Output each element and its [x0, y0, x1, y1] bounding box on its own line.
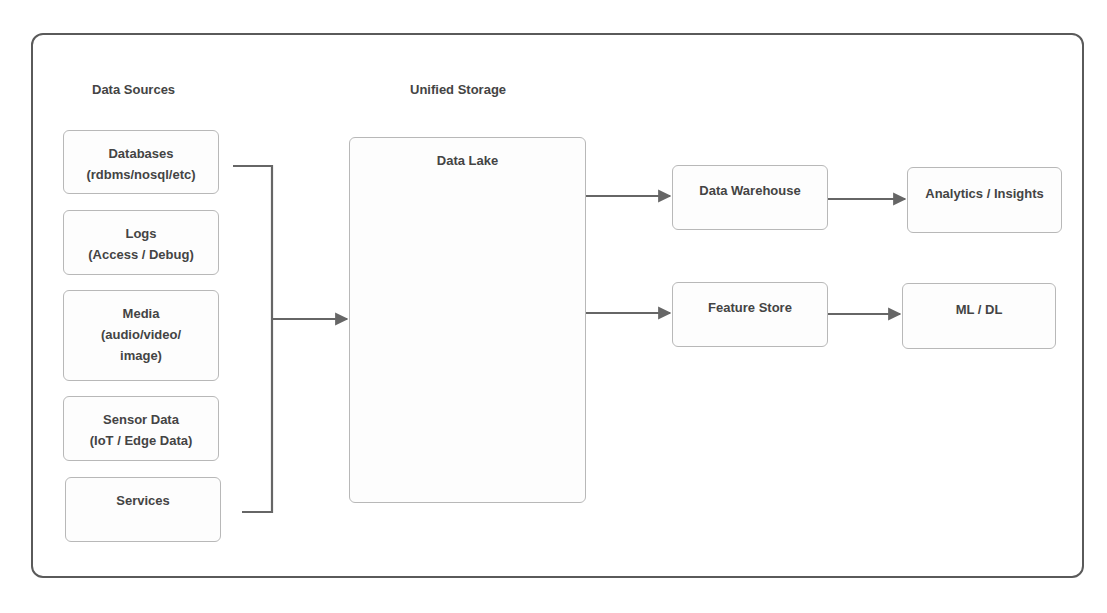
consumer-feature-store: Feature Store [672, 282, 828, 347]
source-databases-title: Databases [108, 143, 173, 164]
source-media-subtitle: (audio/video/ [101, 324, 181, 345]
source-services: Services [65, 477, 221, 542]
source-media-title: Media [123, 303, 160, 324]
ml-dl-title: ML / DL [956, 299, 1003, 320]
source-sensor-data: Sensor Data (IoT / Edge Data) [63, 396, 219, 461]
source-sensor-subtitle: (IoT / Edge Data) [90, 430, 193, 451]
output-ml-dl: ML / DL [902, 283, 1056, 349]
data-lake-title: Data Lake [437, 150, 498, 171]
source-sensor-title: Sensor Data [103, 409, 179, 430]
source-logs: Logs (Access / Debug) [63, 210, 219, 275]
storage-data-lake: Data Lake [349, 137, 586, 503]
output-analytics-insights: Analytics / Insights [907, 167, 1062, 233]
source-services-title: Services [116, 490, 170, 511]
source-media: Media (audio/video/ image) [63, 290, 219, 381]
source-logs-title: Logs [125, 223, 156, 244]
unified-storage-title: Unified Storage [410, 82, 506, 97]
source-logs-subtitle: (Access / Debug) [88, 244, 193, 265]
data-sources-title: Data Sources [92, 82, 175, 97]
consumer-data-warehouse: Data Warehouse [672, 165, 828, 230]
feature-store-title: Feature Store [708, 297, 792, 318]
data-warehouse-title: Data Warehouse [699, 180, 800, 201]
source-databases-subtitle: (rdbms/nosql/etc) [86, 164, 195, 185]
source-databases: Databases (rdbms/nosql/etc) [63, 130, 219, 194]
analytics-insights-title: Analytics / Insights [925, 183, 1043, 204]
source-media-subtitle-2: image) [120, 345, 162, 366]
